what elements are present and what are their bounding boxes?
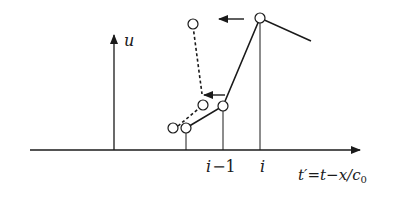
node-i-minus-1 <box>218 101 228 111</box>
wave-steepening-diagram: u i−1 i t′=t−x/c0 <box>0 0 413 200</box>
node-low <box>181 123 191 133</box>
tick-label-i: i <box>260 157 265 176</box>
node-shifted-low <box>168 123 178 133</box>
waveform-solid <box>186 18 311 128</box>
node-i <box>255 13 265 23</box>
tick-label-i-minus-1: i−1 <box>206 157 236 176</box>
node-shifted-mid <box>198 100 208 110</box>
u-axis-label: u <box>124 31 134 50</box>
node-shifted-top <box>188 19 198 29</box>
diagram-svg: u i−1 i t′=t−x/c0 <box>0 0 413 200</box>
waveform-dashed-upper <box>193 26 202 94</box>
x-axis-label: t′=t−x/c0 <box>298 166 367 185</box>
